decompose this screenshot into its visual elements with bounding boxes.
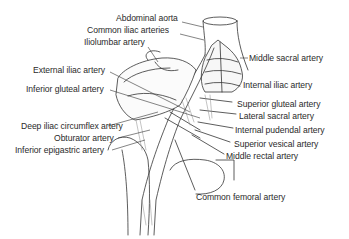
label-middle-rectal-artery: Middle rectal artery xyxy=(226,151,298,161)
label-superior-vesical-artery: Superior vesical artery xyxy=(234,139,318,149)
label-external-iliac-artery: External iliac artery xyxy=(33,65,105,75)
label-inferior-epigastric-artery: Inferior epigastric artery xyxy=(15,145,104,155)
anatomy-figure: Abdominal aorta Common iliac arteries Il… xyxy=(0,0,349,239)
label-common-iliac-arteries: Common iliac arteries xyxy=(87,25,169,35)
label-inferior-gluteal-artery: Inferior gluteal artery xyxy=(26,84,104,94)
label-iliolumbar-artery: Iliolumbar artery xyxy=(84,37,145,47)
label-abdominal-aorta: Abdominal aorta xyxy=(116,13,178,23)
label-lateral-sacral-artery: Lateral sacral artery xyxy=(239,111,314,121)
label-middle-sacral-artery: Middle sacral artery xyxy=(249,53,323,63)
label-deep-iliac-circumflex-artery: Deep iliac circumflex artery xyxy=(21,121,123,131)
label-superior-gluteal-artery: Superior gluteal artery xyxy=(237,99,320,109)
label-internal-pudendal-artery: Internal pudendal artery xyxy=(235,125,325,135)
label-internal-iliac-artery: Internal iliac artery xyxy=(243,80,312,90)
label-common-femoral-artery: Common femoral artery xyxy=(196,192,285,202)
label-obturator-artery: Obturator artery xyxy=(54,133,114,143)
